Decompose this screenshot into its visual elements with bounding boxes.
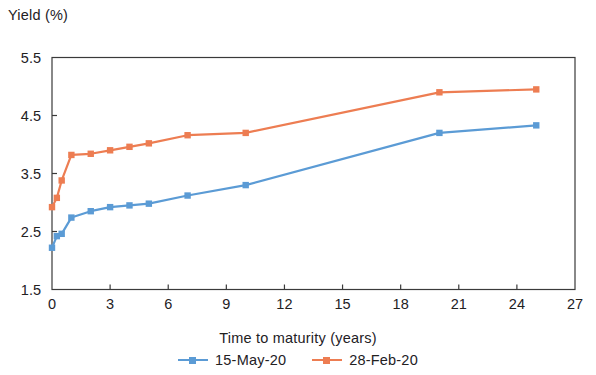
- data-point-marker: [184, 192, 190, 198]
- data-point-marker: [533, 86, 539, 92]
- data-point-marker: [49, 245, 55, 251]
- x-tick-label: 12: [276, 296, 292, 312]
- data-point-marker: [68, 152, 74, 158]
- data-point-marker: [243, 182, 249, 188]
- data-point-marker: [68, 214, 74, 220]
- y-tick-label: 4.5: [21, 108, 41, 124]
- x-axis-title: Time to maturity (years): [0, 330, 596, 346]
- data-point-marker: [49, 204, 55, 210]
- data-point-marker: [88, 151, 94, 157]
- series-line-0: [52, 125, 536, 247]
- data-point-marker: [146, 140, 152, 146]
- legend-label-1: 28-Feb-20: [349, 352, 418, 368]
- data-point-marker: [436, 130, 442, 136]
- legend-item-1[interactable]: 28-Feb-20: [312, 352, 418, 368]
- x-tick-label: 9: [222, 296, 230, 312]
- x-tick-label: 0: [48, 296, 56, 312]
- x-tick-label: 6: [164, 296, 172, 312]
- data-point-marker: [126, 202, 132, 208]
- data-point-marker: [126, 144, 132, 150]
- data-point-marker: [146, 200, 152, 206]
- x-tick-label: 18: [393, 296, 409, 312]
- y-tick-label: 5.5: [21, 50, 41, 66]
- y-tick-label: 2.5: [21, 224, 41, 240]
- data-point-marker: [533, 122, 539, 128]
- x-tick-label: 21: [451, 296, 467, 312]
- y-tick-label: 3.5: [21, 166, 41, 182]
- x-tick-label: 15: [334, 296, 350, 312]
- data-point-marker: [58, 177, 64, 183]
- chart-legend: 15-May-20 28-Feb-20: [0, 352, 596, 368]
- series-line-1: [52, 89, 536, 207]
- data-point-marker: [54, 195, 60, 201]
- legend-label-0: 15-May-20: [215, 352, 286, 368]
- x-tick-label: 24: [509, 296, 525, 312]
- yield-curve-chart: Yield (%) 1.52.53.54.55.5036912151821242…: [0, 0, 596, 375]
- data-point-marker: [107, 147, 113, 153]
- legend-swatch-icon-1: [312, 354, 342, 366]
- x-tick-label: 27: [567, 296, 583, 312]
- data-point-marker: [436, 89, 442, 95]
- data-point-marker: [184, 132, 190, 138]
- plot-area: 1.52.53.54.55.50369121518212427: [0, 0, 596, 375]
- legend-item-0[interactable]: 15-May-20: [178, 352, 286, 368]
- x-tick-label: 3: [106, 296, 114, 312]
- legend-swatch-icon-0: [178, 354, 208, 366]
- data-point-marker: [243, 130, 249, 136]
- data-point-marker: [107, 204, 113, 210]
- data-point-marker: [58, 231, 64, 237]
- y-tick-label: 1.5: [21, 282, 41, 298]
- data-point-marker: [88, 208, 94, 214]
